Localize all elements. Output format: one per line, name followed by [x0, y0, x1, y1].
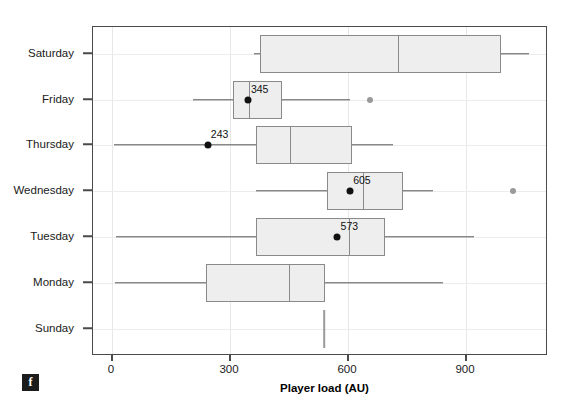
x-tick-mark [347, 355, 349, 361]
y-tick-mark [83, 327, 92, 329]
y-tick-mark [83, 98, 92, 100]
x-tick-label: 0 [108, 363, 114, 375]
y-axis-label-tuesday: Tuesday [30, 230, 74, 242]
median-line [289, 264, 290, 302]
plot-area: 345243605573 [92, 26, 547, 355]
mean-value-label: 573 [341, 220, 359, 232]
gridline-horizontal [93, 329, 546, 330]
mean-dot [244, 97, 251, 104]
y-axis-label-monday: Monday [33, 276, 74, 288]
figure-panel-badge: f [22, 374, 39, 391]
y-tick-mark [83, 52, 92, 54]
y-tick-mark [83, 281, 92, 283]
mean-value-label: 605 [353, 174, 371, 186]
mean-value-label: 243 [211, 128, 229, 140]
y-axis-label-friday: Friday [42, 93, 74, 105]
x-axis-title: Player load (AU) [0, 382, 579, 394]
median-line [398, 35, 399, 73]
y-tick-mark [83, 235, 92, 237]
y-axis-label-wednesday: Wednesday [13, 184, 74, 196]
outlier-point [510, 188, 516, 194]
boxplot-single-line [323, 310, 325, 348]
outlier-point [367, 97, 373, 103]
x-tick-mark [465, 355, 467, 361]
y-tick-mark [83, 143, 92, 145]
y-axis-label-sunday: Sunday [35, 322, 74, 334]
median-line [290, 126, 291, 164]
y-axis-labels: SaturdayFridayThursdayWednesdayTuesdayMo… [0, 0, 74, 412]
mean-dot [334, 234, 341, 241]
box-iqr [206, 264, 325, 302]
mean-dot [346, 188, 353, 195]
boxplot-figure: SaturdayFridayThursdayWednesdayTuesdayMo… [0, 0, 579, 412]
y-tick-mark [83, 189, 92, 191]
box-iqr [260, 35, 501, 73]
box-iqr [256, 218, 385, 256]
x-tick-mark [229, 355, 231, 361]
y-axis-label-saturday: Saturday [28, 47, 74, 59]
x-tick-label: 600 [337, 363, 356, 375]
mean-value-label: 345 [251, 83, 269, 95]
x-tick-mark [111, 355, 113, 361]
y-axis-label-thursday: Thursday [26, 138, 74, 150]
x-tick-label: 900 [455, 363, 474, 375]
mean-dot [204, 142, 211, 149]
x-tick-label: 300 [219, 363, 238, 375]
box-iqr [256, 126, 352, 164]
